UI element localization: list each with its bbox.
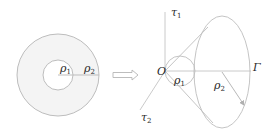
- label-rho1-right: ρ1: [173, 74, 185, 88]
- gamma-label: Γ: [252, 61, 261, 74]
- diagram-canvas: ρ1 ρ2 O τ1 τ2 Γ ρ1: [0, 0, 274, 138]
- diagram-svg: ρ1 ρ2 O τ1 τ2 Γ ρ1: [0, 0, 274, 138]
- annulus-figure: ρ1 ρ2: [17, 34, 99, 116]
- origin-label: O: [157, 65, 166, 78]
- tau2-label: τ2: [141, 111, 152, 125]
- transform-arrow-icon: [113, 70, 138, 80]
- tau1-label: τ1: [171, 6, 182, 20]
- rho2-radius-arrow: [222, 72, 244, 105]
- cone-lower-edge: [165, 71, 213, 123]
- label-rho2-right: ρ2: [213, 79, 225, 93]
- cone-figure: O τ1 τ2 Γ ρ1 ρ2: [140, 6, 261, 128]
